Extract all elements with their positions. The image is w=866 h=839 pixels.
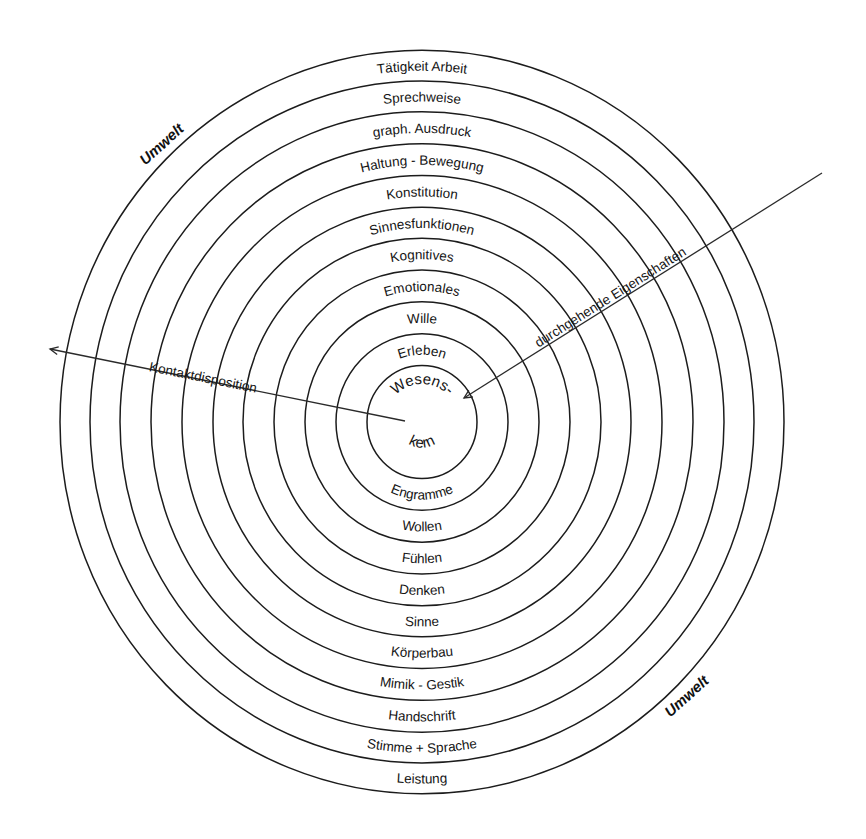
lower-band-label: Wollen — [401, 518, 443, 535]
upper-band-label: Sinnesfunktionen — [368, 216, 476, 238]
upper-band-label: Wille — [407, 311, 438, 327]
personality-layer-diagram: Wesens- kern ErlebenWilleEmotionalesKogn… — [0, 0, 866, 839]
upper-band-label: graph. Ausdruck — [372, 121, 473, 140]
contact-disposition-label: Kontaktdisposition — [148, 359, 258, 395]
lower-band-label: Handschrift — [388, 707, 457, 724]
ring-9 — [120, 112, 724, 732]
lower-band-label: Sinne — [405, 614, 440, 630]
arrowhead-icon — [464, 390, 473, 398]
lower-band-label: Fühlen — [401, 550, 443, 566]
lower-band-labels: EngrammeWollenFühlenDenkenSinneKörperbau… — [366, 481, 478, 786]
upper-band-label: Tätigkeit Arbeit — [376, 59, 468, 77]
core-bottom-label: kern — [407, 431, 437, 451]
core-top-label: Wesens- — [387, 370, 458, 398]
environment-label-top-left: Umwelt — [136, 119, 188, 168]
upper-band-label: Kognitives — [389, 247, 455, 265]
ring-2 — [336, 334, 508, 511]
lower-band-label: Körperbau — [390, 644, 454, 661]
lower-band-label: Leistung — [396, 771, 447, 787]
environment-label-bottom-right: Umwelt — [661, 671, 713, 720]
lower-band-label: Stimme + Sprache — [366, 736, 478, 756]
lower-band-label: Denken — [398, 582, 445, 599]
traits-label: durchgehende Eigenschaften — [532, 244, 689, 350]
core-label: Wesens- kern — [387, 370, 458, 451]
lower-band-label: Engramme — [389, 481, 455, 502]
upper-band-labels: ErlebenWilleEmotionalesKognitivesSinnesf… — [359, 59, 486, 362]
upper-band-label: Sprechweise — [382, 90, 462, 107]
upper-band-label: Konstitution — [385, 185, 459, 203]
upper-band-label: Emotionales — [382, 279, 462, 299]
ring-3 — [305, 302, 539, 542]
ring-6 — [213, 207, 631, 636]
traits-arrow — [464, 173, 822, 398]
upper-band-label: Haltung - Bewegung — [359, 153, 486, 176]
lower-band-label: Mimik - Gestik — [379, 674, 465, 692]
upper-band-label: Erleben — [396, 343, 449, 362]
